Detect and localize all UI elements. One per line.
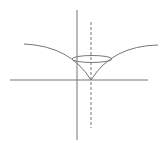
diagram-canvas: [0, 0, 165, 143]
cross-section-ellipse: [72, 56, 112, 63]
